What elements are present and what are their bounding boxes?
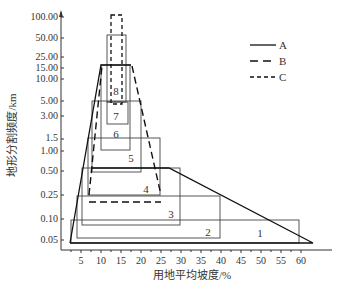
- legend-label-a: A: [279, 39, 287, 51]
- y-tick-label: 1.00: [41, 145, 59, 156]
- box-label: 3: [168, 208, 174, 220]
- x-tick-label: 20: [136, 255, 146, 266]
- y-axis-arrow: [59, 10, 63, 17]
- x-axis-title: 用地平均坡度/%: [153, 268, 231, 281]
- y-tick-label: 15.00: [36, 62, 59, 73]
- box-label: 5: [128, 152, 134, 164]
- x-tick-label: 60: [296, 255, 306, 266]
- y-tick-label: 0.25: [41, 189, 59, 200]
- box-label: 6: [113, 128, 119, 140]
- boxes: [71, 35, 299, 243]
- x-tick-label: 50: [256, 255, 266, 266]
- legend-label-c: C: [279, 71, 286, 83]
- x-tick-label: 40: [216, 255, 226, 266]
- y-tick-label: 25.00: [36, 51, 59, 62]
- legend: A B C: [250, 39, 287, 83]
- box-5: [88, 138, 160, 195]
- box-1: [71, 220, 299, 243]
- x-tick-label: 5: [79, 255, 84, 266]
- y-tick-label: 50.00: [36, 32, 59, 43]
- x-tick-label: 30: [176, 255, 186, 266]
- x-tick-label: 55: [276, 255, 286, 266]
- axes: [59, 10, 332, 250]
- y-tick-label: 10.00: [36, 73, 59, 84]
- envelope-a: [70, 65, 313, 243]
- x-tick-labels: 5 10 15 20 25 30 35 40 45 50 55 60: [79, 255, 307, 266]
- y-tick-label: 100.00: [31, 11, 59, 22]
- box-3: [82, 168, 180, 225]
- y-tick-label: 0.50: [41, 165, 59, 176]
- chart: 100.00 50.00 25.00 15.00 10.00 5.00 3.00…: [0, 0, 353, 289]
- y-tick-label: 5.00: [41, 95, 59, 106]
- x-tick-label: 15: [116, 255, 126, 266]
- box-labels: 1 2 3 4 5 6 7 8: [113, 85, 263, 239]
- x-tick-label: 25: [156, 255, 166, 266]
- y-tick-label: 3.00: [41, 110, 59, 121]
- y-tick-label: 0.05: [41, 234, 59, 245]
- x-tick-label: 45: [236, 255, 246, 266]
- y-tick-labels: 100.00 50.00 25.00 15.00 10.00 5.00 3.00…: [31, 11, 59, 245]
- box-label: 2: [205, 226, 211, 238]
- y-tick-label: 1.5: [46, 132, 59, 143]
- legend-label-b: B: [279, 55, 286, 67]
- x-tick-label: 35: [196, 255, 206, 266]
- y-tick-label: 0.10: [41, 213, 59, 224]
- x-tick-label: 10: [96, 255, 106, 266]
- box-label: 1: [257, 227, 263, 239]
- box-label: 7: [113, 110, 119, 122]
- box-label: 4: [143, 183, 149, 195]
- envelope-b: [89, 66, 161, 202]
- y-axis-title: 地形分割频度/km: [5, 93, 18, 177]
- box-label: 8: [113, 85, 119, 97]
